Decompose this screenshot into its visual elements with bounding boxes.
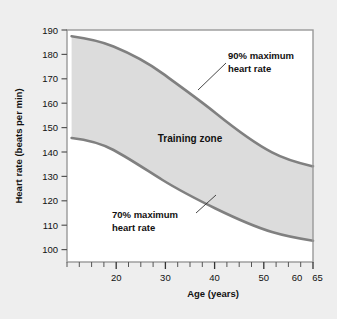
y-tick-label-180: 180 <box>42 49 58 60</box>
y-axis-title: Heart rate (beats per min) <box>13 88 24 203</box>
x-tick-label-30: 30 <box>160 272 171 283</box>
upper-annotation-line1: 90% maximum <box>228 50 294 61</box>
x-axis-title: Age (years) <box>187 288 239 299</box>
heart-rate-training-zone-chart: 190 180 170 160 150 140 130 120 110 100 <box>0 0 337 319</box>
x-tick-label-50: 50 <box>259 272 270 283</box>
chart-figure: 190 180 170 160 150 140 130 120 110 100 <box>0 0 337 319</box>
y-tick-label-140: 140 <box>42 147 58 158</box>
training-zone-label: Training zone <box>158 133 223 144</box>
lower-annotation-line2: heart rate <box>112 222 155 233</box>
y-tick-label-160: 160 <box>42 98 58 109</box>
lower-annotation-line1: 70% maximum <box>112 209 178 220</box>
y-tick-label-190: 190 <box>42 25 58 36</box>
y-tick-label-150: 150 <box>42 122 58 133</box>
y-tick-label-170: 170 <box>42 73 58 84</box>
x-tick-label-60: 60 <box>292 272 303 283</box>
x-tick-label-20: 20 <box>111 272 122 283</box>
upper-annotation-line2: heart rate <box>228 63 271 74</box>
x-tick-label-40: 40 <box>209 272 220 283</box>
y-tick-label-100: 100 <box>42 244 58 255</box>
y-tick-label-120: 120 <box>42 195 58 206</box>
x-tick-label-65: 65 <box>312 272 323 283</box>
y-tick-label-110: 110 <box>43 220 58 231</box>
y-tick-label-130: 130 <box>42 171 58 182</box>
